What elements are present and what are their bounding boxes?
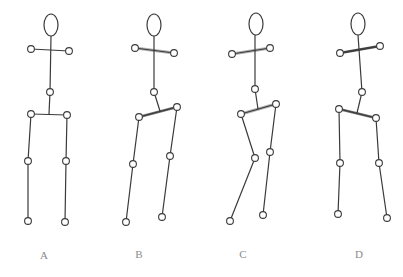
joint-knee-left (337, 160, 344, 167)
joint-shoulder-left (132, 45, 139, 52)
joint-spine-mid (47, 89, 54, 96)
figure-label-c: C (239, 248, 246, 260)
thigh-left (133, 117, 139, 164)
joint-foot-right (159, 214, 166, 221)
joint-knee-right (376, 160, 383, 167)
joint-shoulder-right (267, 45, 274, 52)
thigh-right (66, 115, 67, 161)
joint-shoulder-left (337, 50, 344, 57)
thigh-right (170, 107, 177, 156)
thigh-left (241, 114, 255, 158)
shoulder-bar (340, 46, 380, 53)
joint-knee-right (167, 153, 174, 160)
shoulder-bar (31, 49, 69, 51)
joint-hip-right (64, 112, 71, 119)
joint-spine-mid (151, 89, 158, 96)
stick-figure-b: B (123, 14, 181, 260)
joint-hip-right (273, 101, 280, 108)
joint-shoulder-right (377, 43, 384, 50)
stick-figure-d: D (335, 13, 391, 260)
hip-bar (31, 114, 67, 115)
joint-spine-mid (359, 89, 366, 96)
joint-foot-left (335, 211, 342, 218)
head (351, 13, 365, 35)
joint-spine-mid (252, 86, 259, 93)
hip-bar (241, 104, 276, 114)
joint-hip-left (28, 111, 35, 118)
joint-hip-left (136, 114, 143, 121)
joint-shoulder-left (229, 51, 236, 58)
thigh-right (376, 118, 379, 163)
joint-hip-right (174, 104, 181, 111)
joint-knee-left (25, 158, 32, 165)
stick-figure-a: A (25, 14, 73, 261)
shin-right (263, 152, 270, 215)
head (249, 13, 263, 35)
head (147, 14, 161, 36)
head (44, 14, 58, 36)
joint-foot-left (227, 218, 234, 225)
joint-foot-left (25, 218, 32, 225)
shin-left (338, 163, 340, 214)
spine-upper (50, 36, 51, 92)
shin-right (65, 161, 66, 222)
joint-shoulder-left (28, 46, 35, 53)
joint-foot-right (384, 215, 391, 222)
joint-knee-left (252, 155, 259, 162)
spine-upper (358, 35, 362, 92)
shin-left (126, 164, 133, 222)
thigh-left (339, 109, 340, 163)
joint-knee-right (267, 149, 274, 156)
stick-figure-c: C (227, 13, 280, 260)
figure-label-b: B (135, 248, 142, 260)
hip-bar (139, 107, 177, 117)
shin-right (162, 156, 170, 217)
joint-hip-left (238, 111, 245, 118)
shoulder-bar (232, 48, 270, 54)
joint-foot-left (123, 219, 130, 226)
joint-knee-right (63, 158, 70, 165)
figure-label-a: A (40, 249, 48, 261)
figure-label-d: D (355, 248, 363, 260)
thigh-right (270, 104, 276, 152)
shin-left (230, 158, 255, 221)
joint-shoulder-right (171, 50, 178, 57)
joint-shoulder-right (66, 48, 73, 55)
thigh-left (28, 114, 31, 161)
joint-foot-right (260, 212, 267, 219)
pose-diagram: ABCD (0, 0, 403, 277)
joint-knee-left (130, 161, 137, 168)
joint-hip-right (373, 115, 380, 122)
joint-hip-left (336, 106, 343, 113)
shin-right (379, 163, 387, 218)
joint-foot-right (62, 219, 69, 226)
